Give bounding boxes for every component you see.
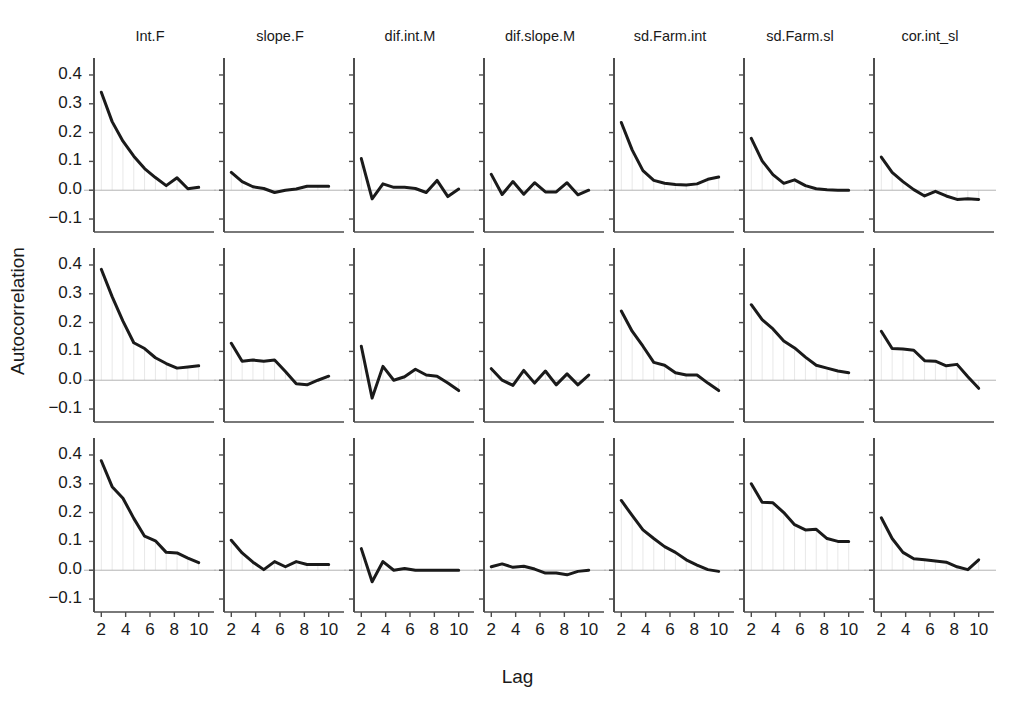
acf-line xyxy=(361,159,458,199)
y-tick-label-r1-4: 0.0 xyxy=(20,369,82,389)
acf-line xyxy=(101,461,198,563)
acf-panel-r1-c5 xyxy=(734,246,866,432)
x-tick-label-c4-4: 10 xyxy=(703,620,735,640)
acf-panel-r1-c0 xyxy=(84,246,216,432)
acf-line xyxy=(751,484,848,542)
y-tick-label-r0-3: 0.1 xyxy=(20,150,82,170)
acf-stems xyxy=(361,159,448,199)
acf-line xyxy=(491,369,588,386)
y-tick-label-r1-1: 0.3 xyxy=(20,283,82,303)
acf-line xyxy=(101,92,198,189)
acf-panel-r0-c1 xyxy=(214,56,346,242)
acf-panel-r1-c1 xyxy=(214,246,346,432)
acf-panel-r1-c4 xyxy=(604,246,736,432)
acf-panel-r2-c1 xyxy=(214,436,346,622)
acf-panel-r2-c5 xyxy=(734,436,866,622)
y-tick-label-r0-5: −0.1 xyxy=(20,208,82,228)
y-tick-label-r2-3: 0.1 xyxy=(20,530,82,550)
acf-line xyxy=(361,346,458,398)
y-tick-label-r2-4: 0.0 xyxy=(20,559,82,579)
acf-panel-r2-c4 xyxy=(604,436,736,622)
acf-panel-r0-c5 xyxy=(734,56,866,242)
column-title-6: cor.int_sl xyxy=(850,28,1010,44)
acf-panel-r0-c3 xyxy=(474,56,606,242)
x-tick-label-c3-4: 10 xyxy=(573,620,605,640)
acf-stems xyxy=(101,269,198,380)
acf-line xyxy=(231,343,328,384)
acf-line xyxy=(491,174,588,194)
acf-line xyxy=(621,500,718,571)
acf-line xyxy=(231,172,328,192)
acf-stems xyxy=(101,92,177,190)
acf-panel-r1-c6 xyxy=(864,246,996,432)
acf-panel-r2-c3 xyxy=(474,436,606,622)
acf-panel-r0-c4 xyxy=(604,56,736,242)
acf-line xyxy=(751,305,848,373)
acf-panel-r1-c2 xyxy=(344,246,476,432)
y-tick-label-r1-0: 0.4 xyxy=(20,254,82,274)
y-tick-label-r2-1: 0.3 xyxy=(20,473,82,493)
acf-stems xyxy=(101,461,198,570)
acf-figure-panel-grid: Autocorrelation Lag Int.Fslope.Fdif.int.… xyxy=(0,0,1035,710)
y-tick-label-r2-2: 0.2 xyxy=(20,502,82,522)
y-tick-label-r0-2: 0.2 xyxy=(20,122,82,142)
y-tick-label-r1-5: −0.1 xyxy=(20,398,82,418)
y-tick-label-r0-0: 0.4 xyxy=(20,64,82,84)
acf-line xyxy=(361,549,458,582)
y-tick-label-r2-0: 0.4 xyxy=(20,444,82,464)
acf-line xyxy=(881,518,978,570)
acf-line xyxy=(231,540,328,569)
acf-line xyxy=(621,123,718,186)
acf-line xyxy=(751,138,848,190)
acf-panel-r0-c2 xyxy=(344,56,476,242)
x-tick-label-c5-4: 10 xyxy=(833,620,865,640)
x-tick-label-c1-4: 10 xyxy=(313,620,345,640)
acf-line xyxy=(881,157,978,199)
acf-panel-r2-c0 xyxy=(84,436,216,622)
y-tick-label-r1-2: 0.2 xyxy=(20,312,82,332)
x-axis-label: Lag xyxy=(0,666,1035,688)
y-tick-label-r2-5: −0.1 xyxy=(20,588,82,608)
x-tick-label-c2-4: 10 xyxy=(443,620,475,640)
acf-line xyxy=(621,311,718,391)
y-tick-label-r0-4: 0.0 xyxy=(20,179,82,199)
acf-line xyxy=(101,269,198,368)
y-tick-label-r1-3: 0.1 xyxy=(20,340,82,360)
acf-panel-r1-c3 xyxy=(474,246,606,432)
acf-panel-r0-c0 xyxy=(84,56,216,242)
acf-line xyxy=(491,564,588,575)
acf-panel-r2-c6 xyxy=(864,436,996,622)
x-tick-label-c6-4: 10 xyxy=(963,620,995,640)
y-tick-label-r0-1: 0.3 xyxy=(20,93,82,113)
x-tick-label-c0-4: 10 xyxy=(183,620,215,640)
acf-panel-r0-c6 xyxy=(864,56,996,242)
acf-panel-r2-c2 xyxy=(344,436,476,622)
